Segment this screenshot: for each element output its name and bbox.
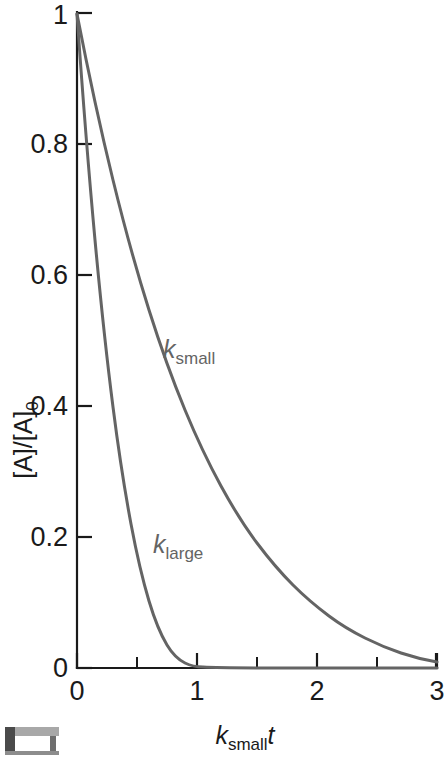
curve-label-k-large: klarge xyxy=(153,530,203,563)
curve-k-large xyxy=(77,14,437,668)
y-axis-title-subscript: 0 xyxy=(23,401,42,410)
curve-k-small xyxy=(77,14,437,662)
y-ticks-group xyxy=(77,144,92,668)
artifact-bar-bottom xyxy=(5,751,59,755)
y-ticklabel-1: 1 xyxy=(53,0,68,30)
curve-label-k-small: ksmall xyxy=(163,335,215,368)
axes-group xyxy=(77,12,437,668)
chart-figure: 0 0.2 0.4 0.6 0.8 1 0 1 2 3 xyxy=(0,0,445,757)
x-ticklabel-2: 2 xyxy=(309,676,324,706)
y-ticklabels-group: 0 0.2 0.4 0.6 0.8 1 xyxy=(30,0,68,683)
corner-scan-artifact xyxy=(3,727,59,755)
curves-group xyxy=(77,14,437,668)
decay-chart-svg: 0 0.2 0.4 0.6 0.8 1 0 1 2 3 xyxy=(0,0,445,757)
curve-label-k-large-subscript: large xyxy=(166,544,204,563)
x-axis-title-subscript: small xyxy=(228,735,268,754)
x-ticklabels-group: 0 1 2 3 xyxy=(69,676,444,706)
x-axis-title: ksmallt xyxy=(215,721,275,754)
x-ticks-group xyxy=(77,653,437,668)
curve-labels-group: ksmall klarge xyxy=(153,335,215,563)
y-ticklabel-0_2: 0.2 xyxy=(30,522,68,552)
x-ticklabel-3: 3 xyxy=(429,676,444,706)
x-axis-title-variable: t xyxy=(268,721,276,749)
y-ticklabel-0: 0 xyxy=(53,653,68,683)
y-ticklabel-0_6: 0.6 xyxy=(30,260,68,290)
x-ticklabel-1: 1 xyxy=(189,676,204,706)
y-ticklabel-0_8: 0.8 xyxy=(30,129,68,159)
curve-label-k-small-subscript: small xyxy=(176,349,216,368)
x-ticklabel-0: 0 xyxy=(69,676,84,706)
y-axis-title-base: [A]/[A] xyxy=(9,411,37,479)
